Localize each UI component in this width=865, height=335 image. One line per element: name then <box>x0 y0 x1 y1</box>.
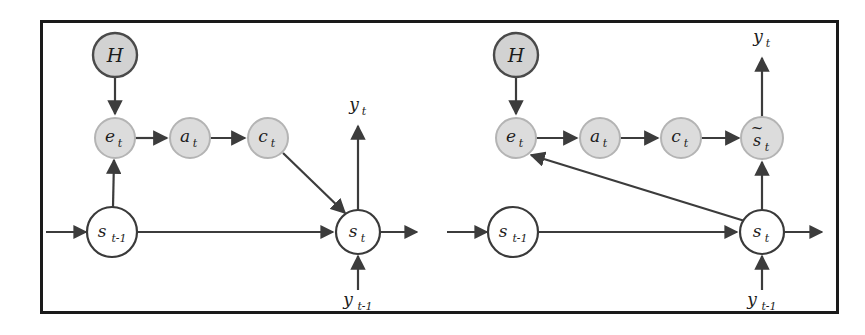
node-R-c[interactable]: c t <box>661 118 701 158</box>
free-label-subscript: t-1 <box>357 300 372 313</box>
node-R-e[interactable]: e t <box>496 118 536 158</box>
node-L-H[interactable]: H <box>93 33 137 77</box>
node-label: e <box>506 126 516 146</box>
node-circle <box>740 210 784 254</box>
node-label-subscript: t <box>271 137 276 150</box>
figure-frame <box>42 22 838 313</box>
node-label: e <box>105 126 115 146</box>
diagram-canvas: H e t a t c t s t-1 <box>0 0 865 335</box>
node-label-subscript: t-1 <box>512 232 527 245</box>
node-R-s-prev[interactable]: s t-1 <box>488 207 538 257</box>
node-label: s <box>753 131 761 150</box>
node-label: H <box>507 44 525 66</box>
node-label: a <box>180 126 190 146</box>
node-label-subscript: t <box>765 232 770 245</box>
node-circle <box>336 210 380 254</box>
node-circle <box>661 118 701 158</box>
node-R-s-tilde[interactable]: ~ s t <box>741 117 783 159</box>
node-label: c <box>258 126 268 146</box>
node-L-a[interactable]: a t <box>170 118 210 158</box>
free-label: y <box>342 289 353 309</box>
free-label: y <box>752 26 763 46</box>
free-label-subscript: t-1 <box>761 300 776 313</box>
node-L-s-prev[interactable]: s t-1 <box>87 207 137 257</box>
figure-root: H e t a t c t s t-1 <box>0 0 865 335</box>
node-label-subscript: t-1 <box>111 232 126 245</box>
node-R-s[interactable]: s t <box>740 210 784 254</box>
node-label: H <box>106 44 124 66</box>
node-circle <box>248 118 288 158</box>
node-label-subscript: t <box>765 141 770 154</box>
free-label-subscript: t <box>362 105 367 118</box>
node-label-subscript: t <box>193 137 198 150</box>
node-label-subscript: t <box>118 137 123 150</box>
node-label: s <box>499 221 508 241</box>
node-L-c[interactable]: c t <box>248 118 288 158</box>
node-label: s <box>349 221 358 241</box>
node-label-subscript: t <box>361 232 366 245</box>
node-label: s <box>98 221 107 241</box>
free-label-subscript: t <box>766 37 771 50</box>
node-label-subscript: t <box>519 137 524 150</box>
free-label: y <box>348 94 359 114</box>
node-label: c <box>671 126 681 146</box>
edge-sprev-to-e <box>113 160 114 207</box>
node-L-s[interactable]: s t <box>336 210 380 254</box>
free-label: y <box>746 289 757 309</box>
node-label: a <box>590 126 600 146</box>
node-label: s <box>753 221 762 241</box>
node-label-subscript: t <box>684 137 689 150</box>
node-R-a[interactable]: a t <box>580 118 620 158</box>
node-label-subscript: t <box>603 137 608 150</box>
node-L-e[interactable]: e t <box>95 118 135 158</box>
node-R-H[interactable]: H <box>494 33 538 77</box>
